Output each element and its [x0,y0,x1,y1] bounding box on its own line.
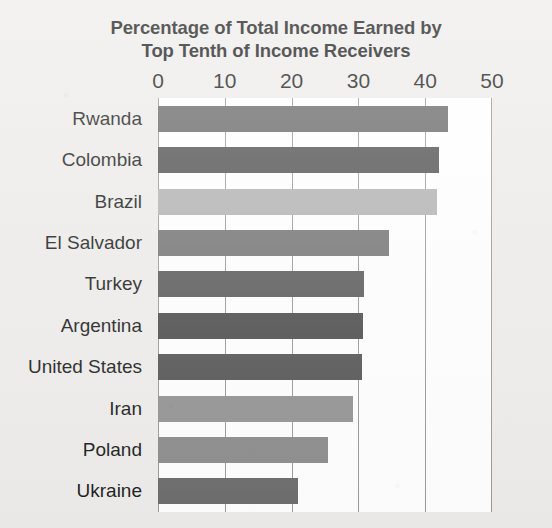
bar-poland [158,437,328,463]
chart-title-line-2: Top Tenth of Income Receivers [0,39,552,62]
chart-title: Percentage of Total Income Earned by Top… [0,16,552,62]
category-label-ukraine: Ukraine [0,478,150,504]
x-tick-label-20: 20 [262,68,322,94]
bar-turkey [158,271,364,297]
x-tick-label-40: 40 [395,68,455,94]
category-label-argentina: Argentina [0,313,150,339]
category-label-brazil: Brazil [0,189,150,215]
x-tick-label-50: 50 [462,68,522,94]
bar-colombia [158,147,439,173]
bar-el-salvador [158,230,389,256]
bar-ukraine [158,478,298,504]
bar-chart: Percentage of Total Income Earned by Top… [0,0,552,528]
x-tick-label-10: 10 [195,68,255,94]
bar-rwanda [158,106,448,132]
category-label-iran: Iran [0,396,150,422]
bar-united-states [158,354,362,380]
category-label-rwanda: Rwanda [0,106,150,132]
bar-argentina [158,313,363,339]
category-label-united-states: United States [0,354,150,380]
x-tick-label-30: 30 [328,68,388,94]
category-axis-labels: RwandaColombiaBrazilEl SalvadorTurkeyArg… [0,98,150,512]
x-tick-label-0: 0 [128,68,188,94]
bars-layer [158,98,492,512]
category-label-colombia: Colombia [0,147,150,173]
category-label-el-salvador: El Salvador [0,230,150,256]
bar-brazil [158,189,437,215]
chart-title-line-1: Percentage of Total Income Earned by [0,16,552,39]
category-label-turkey: Turkey [0,271,150,297]
bar-iran [158,396,353,422]
category-label-poland: Poland [0,437,150,463]
